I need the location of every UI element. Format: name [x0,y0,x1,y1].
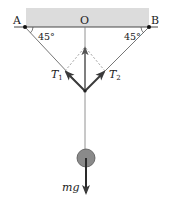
junction-point [83,89,86,92]
label-T1-subscript: 1 [58,74,62,82]
force-diagram: A B O 45° 45° T1 T2 mg [0,0,169,208]
dashed-line-right [85,47,105,71]
angle-label-left: 45° [38,31,55,42]
angle-label-right: 45° [124,31,141,42]
tension-T1-arrow [66,72,85,91]
angle-arc-left [31,27,34,33]
label-O: O [80,14,89,27]
angle-arc-right [141,27,144,33]
point-A [23,25,27,29]
label-T2: T2 [109,68,121,82]
label-T1: T1 [51,68,63,82]
label-mg: mg [62,181,79,194]
label-A: A [12,14,22,27]
dashed-line-left [65,47,85,71]
label-T2-subscript: 2 [116,74,120,82]
tension-T2-arrow [85,72,104,91]
label-B: B [151,14,159,27]
